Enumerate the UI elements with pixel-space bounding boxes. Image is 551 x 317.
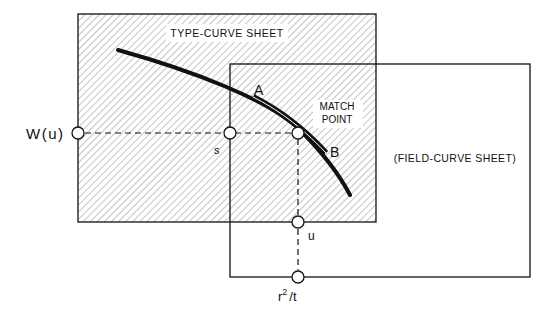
match-point-label-line2: POINT (322, 114, 353, 125)
type-curve-sheet-label: TYPE-CURVE SHEET (170, 27, 283, 39)
match-point-marker (292, 127, 304, 139)
u-marker (292, 216, 304, 228)
w-u-marker (72, 127, 84, 139)
point-b-label: B (330, 144, 339, 160)
r2-t-marker (292, 271, 304, 283)
u-label: u (308, 229, 315, 243)
match-point-label-line1: MATCH (320, 101, 355, 112)
field-curve-sheet-label: (FIELD-CURVE SHEET) (394, 152, 516, 164)
s-label: s (214, 144, 220, 156)
r2-t-label: r2/t (278, 287, 297, 304)
s-marker (224, 127, 236, 139)
type-curve-matching-diagram: TYPE-CURVE SHEET (FIELD-CURVE SHEET) MAT… (0, 0, 551, 317)
point-a-label: A (254, 82, 264, 98)
w-u-label: W(u) (26, 125, 65, 142)
